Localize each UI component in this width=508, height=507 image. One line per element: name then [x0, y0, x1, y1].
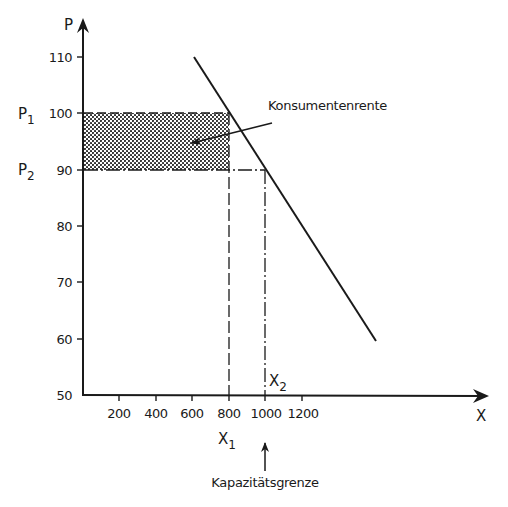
x-axis-label: X [476, 407, 486, 425]
x-tick-1200: 1200 [287, 406, 318, 421]
x-tick-400: 400 [144, 406, 168, 421]
y-tick-labels: 110 100 90 80 70 60 50 [49, 50, 73, 403]
y-tick-100: 100 [49, 106, 73, 121]
x2-label: X2 [269, 372, 287, 394]
x-tick-labels: 200 400 600 800 1000 1200 [107, 406, 318, 421]
consumer-surplus-label: Konsumentenrente [268, 98, 387, 113]
x-tick-800: 800 [217, 406, 241, 421]
x-tick-200: 200 [107, 406, 131, 421]
y-tick-50: 50 [56, 388, 72, 403]
y-axis-label: P [64, 16, 73, 34]
y-tick-70: 70 [56, 275, 72, 290]
x1-label: X1 [218, 430, 236, 452]
chart-canvas: 110 100 90 80 70 60 50 200 400 600 800 1… [0, 0, 508, 507]
x-axis [82, 395, 482, 396]
y-tick-90: 90 [56, 163, 72, 178]
y-tick-60: 60 [56, 332, 72, 347]
y-tick-80: 80 [56, 219, 72, 234]
p2-label: P2 [18, 161, 35, 183]
capacity-limit-label: Kapazitätsgrenze [211, 475, 319, 490]
p1-label: P1 [18, 105, 35, 127]
x-tick-1000: 1000 [250, 406, 281, 421]
y-tick-110: 110 [49, 50, 73, 65]
consumer-surplus-area [84, 113, 229, 170]
x-tick-600: 600 [180, 406, 204, 421]
